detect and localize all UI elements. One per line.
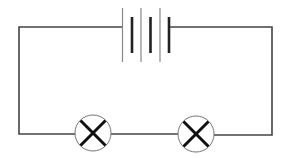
wire-right bbox=[169, 27, 272, 135]
battery-icon bbox=[123, 8, 170, 62]
lamp-1-icon bbox=[75, 115, 111, 151]
circuit-diagram: Series circuit with battery and two lamp… bbox=[0, 0, 283, 159]
wire-left bbox=[19, 27, 123, 134]
lamp-2-icon bbox=[178, 116, 214, 152]
wires bbox=[19, 27, 272, 135]
